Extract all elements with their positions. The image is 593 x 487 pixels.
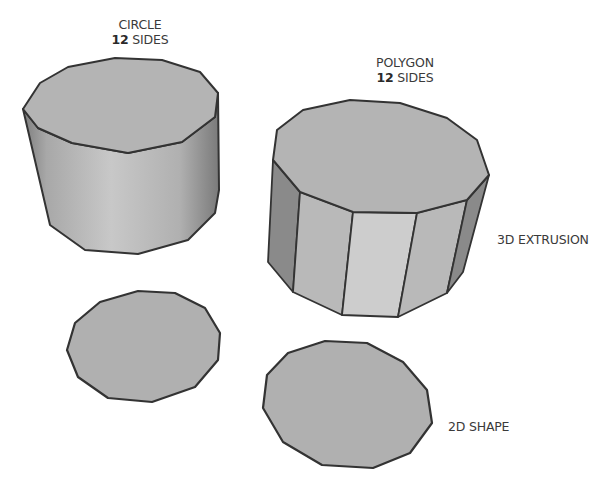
polygon-sides-count: 12	[377, 70, 394, 85]
circle-2d-shape	[67, 291, 220, 402]
circle-label-title: CIRCLE	[100, 17, 180, 32]
circle-sides-unit: SIDES	[132, 32, 168, 47]
polygon-sides-unit: SIDES	[397, 70, 433, 85]
extrusion-label: 3D EXTRUSION	[497, 232, 589, 247]
polygon-label-sides: 12 SIDES	[360, 70, 450, 85]
circle-label-sides: 12 SIDES	[100, 32, 180, 47]
circle-extrusion	[23, 58, 219, 254]
circle-sides-count: 12	[112, 32, 129, 47]
shape-2d-label: 2D SHAPE	[448, 419, 509, 434]
polygon-label: POLYGON 12 SIDES	[360, 55, 450, 85]
polygon-2d-shape	[263, 341, 432, 468]
circle-label: CIRCLE 12 SIDES	[100, 17, 180, 47]
polygon-extrusion	[268, 100, 489, 317]
polygon-label-title: POLYGON	[360, 55, 450, 70]
